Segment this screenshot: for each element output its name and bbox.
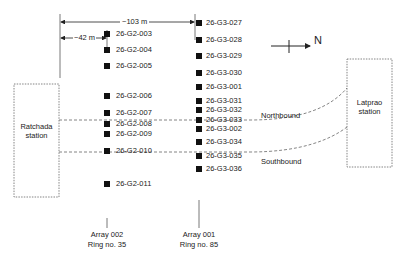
monitoring-point-label: 26-G3-031 bbox=[206, 96, 242, 105]
monitoring-point-label: 26-G3-027 bbox=[206, 18, 242, 27]
monitoring-point-marker bbox=[196, 70, 202, 76]
monitoring-point-marker bbox=[104, 121, 110, 127]
ratchada-station-box bbox=[14, 84, 59, 197]
diagram-linework bbox=[0, 0, 404, 265]
monitoring-point-marker bbox=[104, 93, 110, 99]
north-label: N bbox=[314, 34, 322, 46]
monitoring-point-label: 26-G3-032 bbox=[206, 105, 242, 114]
dimension-total-label: ~103 m bbox=[120, 17, 149, 26]
monitoring-point-label: 26-G2-007 bbox=[116, 108, 152, 117]
monitoring-point-label: 26-G3-001 bbox=[206, 82, 242, 91]
monitoring-point-label: 26-G3-002 bbox=[206, 124, 242, 133]
monitoring-point-label: 26-G2-005 bbox=[116, 61, 152, 70]
monitoring-point-marker bbox=[196, 53, 202, 59]
monitoring-point-marker bbox=[196, 166, 202, 172]
monitoring-point-marker bbox=[196, 117, 202, 123]
monitoring-point-label: 26-G2-010 bbox=[116, 146, 152, 155]
monitoring-point-marker bbox=[196, 126, 202, 132]
monitoring-point-label: 26-G2-011 bbox=[116, 179, 151, 188]
monitoring-point-marker bbox=[104, 148, 110, 154]
monitoring-point-marker bbox=[104, 131, 110, 137]
northbound-label: Northbound bbox=[261, 111, 300, 120]
monitoring-point-marker bbox=[196, 84, 202, 90]
ratchada-station-label: Ratchada station bbox=[14, 122, 59, 140]
monitoring-point-label: 26-G3-036 bbox=[206, 164, 242, 173]
monitoring-point-label: 26-G2-003 bbox=[116, 29, 152, 38]
monitoring-point-marker bbox=[196, 153, 202, 159]
southbound-track bbox=[59, 127, 347, 152]
monitoring-point-marker bbox=[104, 47, 110, 53]
monitoring-point-label: 26-G3-028 bbox=[206, 35, 242, 44]
monitoring-point-label: 26-G2-008 bbox=[116, 119, 152, 128]
array-002-caption: Array 002 Ring no. 35 bbox=[77, 230, 137, 249]
monitoring-point-label: 26-G2-009 bbox=[116, 129, 152, 138]
monitoring-point-marker bbox=[104, 110, 110, 116]
monitoring-point-label: 26-G3-035 bbox=[206, 151, 242, 160]
monitoring-point-marker bbox=[196, 20, 202, 26]
monitoring-point-label: 26-G3-033 bbox=[206, 115, 242, 124]
northbound-track bbox=[59, 88, 347, 120]
monitoring-point-marker bbox=[104, 181, 110, 187]
monitoring-point-marker bbox=[196, 139, 202, 145]
dimension-partial-label: ~42 m bbox=[73, 33, 96, 42]
monitoring-point-label: 26-G3-030 bbox=[206, 68, 242, 77]
southbound-label: Southbound bbox=[261, 157, 301, 166]
monitoring-point-label: 26-G2-004 bbox=[116, 45, 152, 54]
monitoring-point-marker bbox=[104, 31, 110, 37]
monitoring-point-label: 26-G3-029 bbox=[206, 51, 242, 60]
monitoring-point-marker bbox=[196, 107, 202, 113]
monitoring-point-label: 26-G3-034 bbox=[206, 137, 242, 146]
latprao-station-label: Latprao station bbox=[347, 98, 392, 116]
monitoring-point-label: 26-G2-006 bbox=[116, 91, 152, 100]
monitoring-point-marker bbox=[104, 63, 110, 69]
array-001-caption: Array 001 Ring no. 85 bbox=[169, 230, 229, 249]
monitoring-point-marker bbox=[196, 98, 202, 104]
monitoring-point-marker bbox=[196, 37, 202, 43]
